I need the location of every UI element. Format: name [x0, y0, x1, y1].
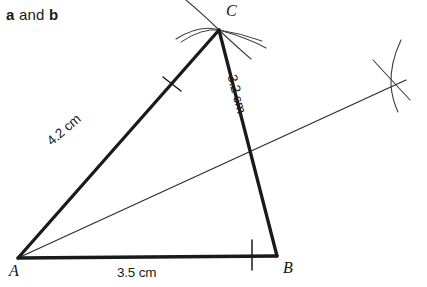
arc-group-bisector-right — [373, 40, 410, 112]
construction-drawing — [0, 0, 427, 287]
geometry-figure: a and b — [0, 0, 427, 287]
side-ab — [18, 256, 277, 258]
compass-arc-diagonal-right — [373, 60, 410, 100]
figure-caption: a and b — [6, 6, 58, 23]
compass-arc-vertical-right — [391, 40, 401, 112]
arc-group-at-c — [176, 0, 266, 59]
vertex-label-a: A — [9, 262, 19, 280]
caption-conjunction: and — [15, 6, 49, 23]
side-length-label-ab: 3.5 cm — [117, 265, 156, 280]
vertex-label-b: B — [283, 259, 293, 277]
angle-bisector-line — [18, 80, 406, 258]
side-ac — [18, 30, 219, 258]
vertex-label-c: C — [226, 2, 237, 20]
caption-part-a: a — [6, 6, 15, 23]
caption-part-b: b — [49, 6, 58, 23]
